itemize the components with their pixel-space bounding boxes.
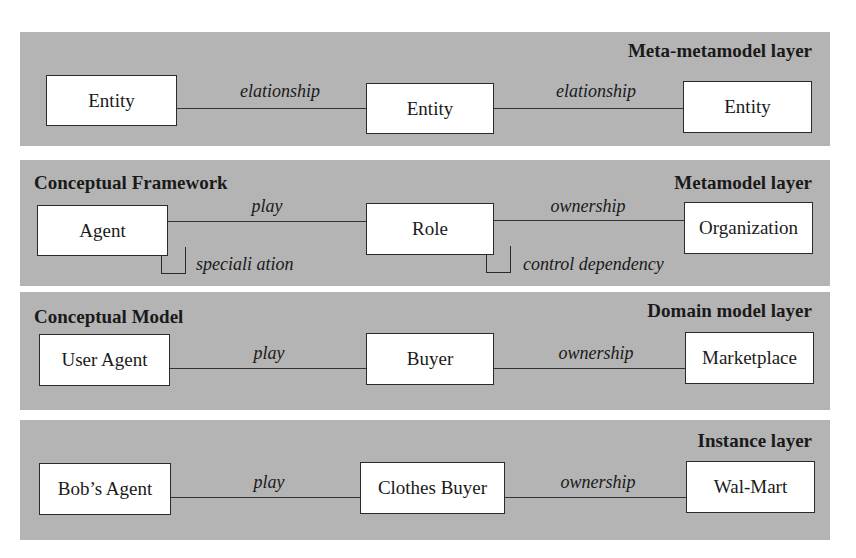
- relationship-line: [177, 108, 366, 109]
- ownership-label: ownership: [558, 343, 633, 364]
- wal-mart-box: Wal-Mart: [686, 461, 815, 513]
- entity-box: Entity: [366, 83, 494, 134]
- play-line: [170, 368, 366, 369]
- control-dependency-label: control dependency: [523, 254, 664, 275]
- layer-title: Meta-metamodel layer: [628, 40, 812, 62]
- role-box: Role: [366, 203, 494, 255]
- ownership-line: [494, 368, 685, 369]
- marketplace-box: Marketplace: [685, 332, 814, 384]
- layer-title: Domain model layer: [647, 300, 812, 322]
- organization-box: Organization: [684, 202, 813, 254]
- user-agent-box: User Agent: [39, 334, 170, 386]
- entity-box: Entity: [683, 81, 812, 133]
- clothes-buyer-box: Clothes Buyer: [360, 462, 505, 514]
- play-label: play: [254, 472, 285, 493]
- play-label: play: [252, 196, 283, 217]
- layer-subtitle: Conceptual Framework: [34, 172, 228, 194]
- play-line: [168, 221, 366, 222]
- relationship-label: elationship: [240, 81, 320, 102]
- layer-title: Instance layer: [697, 430, 812, 452]
- play-line: [171, 497, 360, 498]
- ownership-line: [494, 220, 684, 221]
- relationship-label: elationship: [556, 81, 636, 102]
- bobs-agent-box: Bob’s Agent: [39, 463, 171, 515]
- relationship-line: [494, 108, 683, 109]
- play-label: play: [254, 343, 285, 364]
- ownership-label: ownership: [560, 472, 635, 493]
- specialization-label: speciali ation: [196, 254, 294, 275]
- agent-box: Agent: [37, 205, 168, 256]
- layer-title: Metamodel layer: [674, 172, 812, 194]
- ownership-label: ownership: [550, 196, 625, 217]
- buyer-box: Buyer: [366, 333, 494, 385]
- entity-box: Entity: [46, 75, 177, 126]
- ownership-line: [505, 497, 686, 498]
- layer-subtitle: Conceptual Model: [34, 306, 183, 328]
